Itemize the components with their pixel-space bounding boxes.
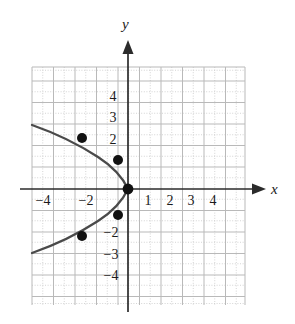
y-tick-label-neg2: −2	[99, 225, 123, 241]
y-axis-label: y	[122, 16, 129, 33]
x-tick-label-neg4: −4	[32, 193, 54, 209]
data-point	[77, 231, 87, 241]
x-tick-label-2: 2	[161, 193, 179, 209]
grid-major-lines	[32, 67, 245, 305]
y-tick-label-neg4: −4	[99, 268, 123, 284]
x-tick-label-3: 3	[182, 193, 200, 209]
graph-figure: x y −4 −2 1 2 3 4 4 3 2 −2 −3 −4	[0, 0, 295, 324]
y-tick-label-2: 2	[104, 132, 122, 148]
x-tick-label-neg2: −2	[75, 193, 97, 209]
x-tick-label-1: 1	[139, 193, 157, 209]
data-point	[113, 155, 123, 165]
x-axis-label: x	[271, 181, 278, 198]
y-tick-label-neg3: −3	[99, 247, 123, 263]
y-tick-label-3: 3	[104, 110, 122, 126]
data-point	[123, 184, 134, 195]
coordinate-plane-svg	[0, 0, 295, 324]
x-tick-label-4: 4	[204, 193, 222, 209]
data-point	[77, 133, 87, 143]
y-tick-label-4: 4	[104, 89, 122, 105]
data-point	[113, 210, 123, 220]
